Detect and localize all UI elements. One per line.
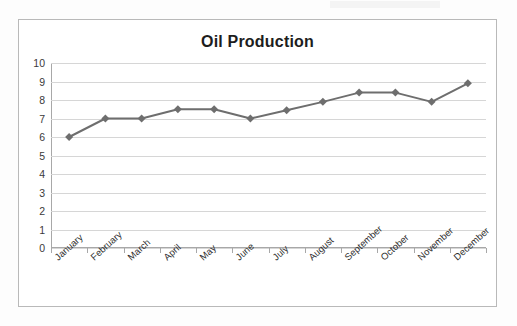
data-point-marker <box>319 98 327 106</box>
data-point-marker <box>174 105 182 113</box>
x-axis-tick-mark <box>341 248 342 253</box>
x-axis-tick-mark <box>51 248 52 253</box>
chart-canvas: Oil Production 012345678910 JanuaryFebru… <box>0 0 517 326</box>
y-axis-tick-label: 8 <box>39 95 45 106</box>
chart-frame: Oil Production 012345678910 JanuaryFebru… <box>18 19 497 307</box>
y-axis-tick-label: 4 <box>39 169 45 180</box>
data-point-marker <box>428 98 436 106</box>
y-axis-tick-label: 1 <box>39 224 45 235</box>
data-point-marker <box>246 115 254 123</box>
data-point-marker <box>101 115 109 123</box>
y-axis-tick-label: 7 <box>39 113 45 124</box>
y-axis-tick-label: 10 <box>33 58 45 69</box>
data-point-marker <box>65 133 73 141</box>
scan-artifact <box>330 1 440 8</box>
x-axis-tick-mark <box>486 248 487 253</box>
x-axis-tick-mark <box>87 248 88 253</box>
data-point-marker <box>464 79 472 87</box>
x-axis-tick-mark <box>232 248 233 253</box>
series-polyline <box>69 83 468 137</box>
x-axis-tick-mark <box>450 248 451 253</box>
data-point-marker <box>391 89 399 97</box>
y-axis-tick-label: 5 <box>39 150 45 161</box>
y-axis-tick-label: 9 <box>39 76 45 87</box>
y-axis-tick-label: 2 <box>39 206 45 217</box>
x-axis-tick-mark <box>160 248 161 253</box>
data-point-marker <box>355 89 363 97</box>
y-axis-tick-label: 6 <box>39 132 45 143</box>
data-point-marker <box>210 105 218 113</box>
x-axis-tick-mark <box>269 248 270 253</box>
data-point-marker <box>138 115 146 123</box>
y-axis-tick-label: 0 <box>39 243 45 254</box>
x-axis-tick-mark <box>124 248 125 253</box>
data-series-line <box>51 63 486 248</box>
x-axis-tick-mark <box>305 248 306 253</box>
x-axis-tick-mark <box>377 248 378 253</box>
data-point-marker <box>283 106 291 114</box>
x-axis-tick-mark <box>196 248 197 253</box>
x-axis-tick-mark <box>414 248 415 253</box>
chart-title: Oil Production <box>19 33 496 51</box>
plot-area: 012345678910 JanuaryFebruaryMarchAprilMa… <box>51 63 486 248</box>
y-axis-tick-label: 3 <box>39 187 45 198</box>
